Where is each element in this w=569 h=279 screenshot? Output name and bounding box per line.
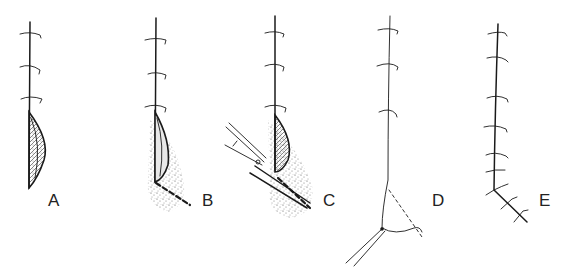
panel-e-drawing — [484, 24, 528, 222]
panel-label-e: E — [539, 192, 550, 209]
surgical-illustration: A B C D E — [0, 0, 569, 279]
panel-label-c: C — [323, 192, 335, 209]
panel-b-drawing — [145, 18, 190, 212]
panel-label-a: A — [48, 192, 59, 209]
panel-d-drawing — [346, 16, 422, 266]
panel-label-b: B — [202, 192, 213, 209]
panel-a-drawing — [20, 22, 45, 188]
panel-label-d: D — [432, 192, 444, 209]
panel-c-drawing — [225, 16, 313, 218]
